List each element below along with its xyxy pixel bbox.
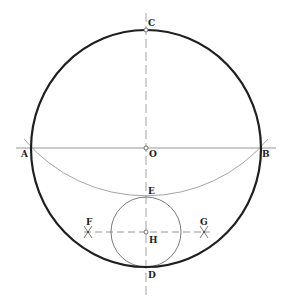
diagram-canvas: C A O B E F G H D [0,0,291,302]
label-b: B [262,150,270,159]
label-d: D [148,271,156,280]
label-h: H [149,236,158,245]
point-o-marker [144,146,148,150]
point-f-marker [87,231,89,233]
point-g-marker [203,231,205,233]
label-c: C [148,19,155,28]
point-c-marker [144,28,148,32]
point-h-marker [144,230,148,234]
label-g: G [200,218,208,227]
label-o: O [149,150,157,159]
construction-drawing [0,0,291,302]
label-e: E [148,187,155,196]
label-f: F [86,218,92,227]
label-a: A [21,150,28,159]
